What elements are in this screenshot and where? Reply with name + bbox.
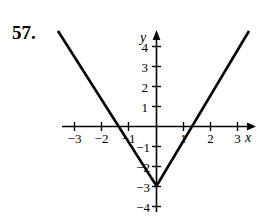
coordinate-plot: −3 −2 −1 1 2 3 4 3 2 1 −1 −2 −3 −4 x y: [0, 0, 265, 217]
y-tick-label-3: 3: [142, 60, 149, 75]
x-axis-label: x: [244, 130, 252, 145]
y-tick-label-neg4: −4: [136, 200, 150, 215]
y-axis-label: y: [138, 30, 147, 45]
y-tick-label-2: 2: [142, 80, 149, 95]
y-tick-label-neg1: −1: [136, 140, 150, 155]
math-figure: 57.: [0, 0, 265, 217]
y-tick-label-neg3: −3: [136, 180, 150, 195]
function-curve: [58, 31, 249, 186]
x-tick-label-2: 2: [207, 131, 214, 146]
x-tick-label-neg3: −3: [68, 131, 82, 146]
x-tick-label-3: 3: [234, 131, 241, 146]
x-axis: [62, 123, 256, 131]
y-tick-label-1: 1: [142, 100, 149, 115]
x-tick-label-neg2: −2: [95, 131, 109, 146]
